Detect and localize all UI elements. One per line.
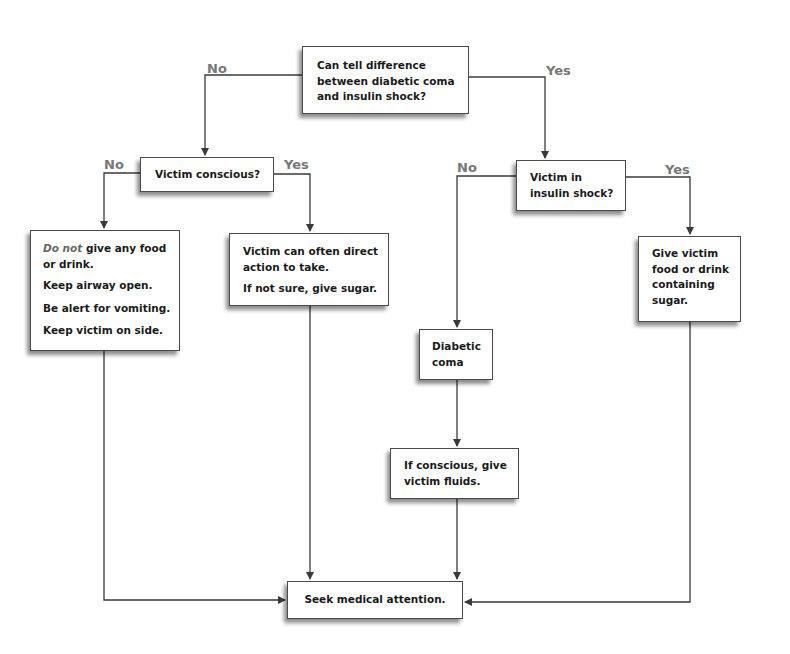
node-text-line: or drink. [43, 258, 94, 270]
edge-shock-yes [626, 177, 690, 234]
node-text-line: containing [652, 277, 740, 293]
node-text-line: sugar. [652, 293, 740, 309]
node-text-line: insulin shock? [530, 186, 625, 202]
node-text-line: Be alert for vomiting. [43, 301, 179, 317]
node-text-line: Diabetic [432, 339, 492, 355]
node-text-line: coma [432, 355, 492, 371]
node-text-line: victim fluids. [404, 474, 518, 490]
edge-unconscious-seek [104, 351, 285, 600]
label-shock-no: No [457, 160, 477, 175]
node-give-fluids: If conscious, give victim fluids. [390, 448, 519, 499]
edge-start-no [205, 75, 302, 155]
label-start-yes: Yes [546, 63, 571, 78]
node-diabetic-coma: Diabetic coma [419, 329, 493, 380]
label-start-no: No [207, 61, 227, 76]
edge-start-yes [469, 77, 545, 158]
node-victim-conscious: Victim conscious? [140, 157, 274, 192]
node-text-line: If conscious, give [404, 458, 518, 474]
node-text-line: Victim can often direct [243, 244, 388, 260]
node-text-line: action to take. [243, 260, 388, 276]
node-text-line: Keep airway open. [43, 278, 179, 294]
edge-shock-no [457, 176, 516, 327]
label-conscious-no: No [104, 157, 124, 172]
node-text-line: Can tell difference [317, 58, 468, 74]
label-shock-yes: Yes [665, 162, 690, 177]
node-text-line: Keep victim on side. [43, 323, 179, 339]
node-text-line: Give victim [652, 246, 740, 262]
node-seek-medical-attention: Seek medical attention. [287, 581, 463, 619]
edge-conscious-yes [274, 174, 310, 231]
node-text-line: between diabetic coma [317, 74, 468, 90]
node-text-line: Victim in [530, 170, 625, 186]
node-text-line: give any food [82, 242, 166, 254]
edge-conscious-no [104, 173, 140, 228]
node-text-line: If not sure, give sugar. [243, 281, 388, 297]
node-unconscious-care: Do not give any foodor drink. Keep airwa… [30, 230, 180, 351]
node-text-line: Seek medical attention. [288, 592, 462, 608]
label-conscious-yes: Yes [284, 157, 309, 172]
node-insulin-shock: Victim in insulin shock? [516, 160, 626, 211]
node-text-line: food or drink [652, 262, 740, 278]
node-conscious-care: Victim can often direct action to take. … [229, 233, 389, 306]
node-give-sugar: Give victim food or drink containing sug… [638, 236, 741, 322]
node-text-line: Victim conscious? [155, 167, 273, 183]
node-start-question: Can tell difference between diabetic com… [302, 46, 469, 114]
do-not-emphasis: Do not [43, 242, 82, 254]
node-text-line: and insulin shock? [317, 89, 468, 105]
